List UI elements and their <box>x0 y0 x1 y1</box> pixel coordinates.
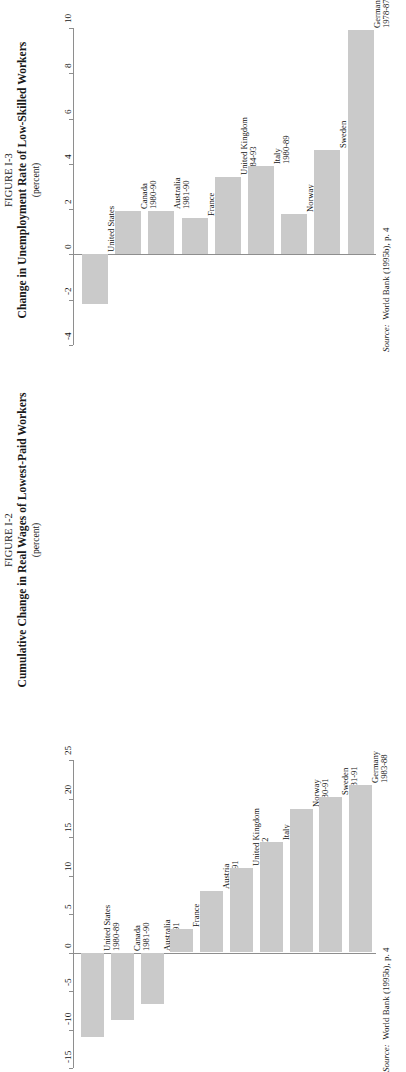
figure-1-2-title-block: FIGURE I-2 Cumulative Change in Real Wag… <box>0 360 58 720</box>
figure-1-2-source-prefix: Source: <box>381 1044 391 1072</box>
axis-tick <box>69 953 73 954</box>
figure-1-2-value-axis <box>73 760 74 1068</box>
axis-tick <box>69 876 73 877</box>
figure-1-3-title-block: FIGURE I-3 Change in Unemployment Rate o… <box>0 0 56 360</box>
bar <box>141 953 164 1005</box>
bar-label-period: 1981-90 <box>183 178 192 210</box>
axis-tick <box>69 73 73 74</box>
bar <box>290 809 313 953</box>
bar-label: Italy1980-89 <box>273 135 292 164</box>
axis-tick <box>69 1068 73 1069</box>
bar-label: United States1980-89 <box>103 904 122 950</box>
axis-tick <box>69 1030 73 1031</box>
bar-label-period: 1978-87 <box>382 0 391 28</box>
bar <box>248 166 274 254</box>
bar-label: Australia1981-90 <box>173 178 192 210</box>
bar-label-period: 1981-90 <box>142 922 151 951</box>
figure-1-3-title: Change in Unemployment Rate of Low-Skill… <box>16 42 30 319</box>
bar <box>281 214 307 255</box>
bar <box>319 797 342 953</box>
figure-1-2-source-note: Source: World Bank (1995b), p. 4 <box>381 948 391 1072</box>
axis-tick <box>69 119 73 120</box>
figure-1-2: FIGURE I-2 Cumulative Change in Real Wag… <box>0 360 406 717</box>
axis-tick <box>69 345 73 346</box>
figure-1-3-source-note: Source: World Bank (1995b), p. 4 <box>381 228 391 352</box>
figure-1-2-source-text: World Bank (1995b), p. 4 <box>381 948 391 1040</box>
figure-1-3-units: (percent) <box>30 163 42 198</box>
bar <box>115 211 141 254</box>
axis-tick <box>69 300 73 301</box>
bar-label: Canada1981-90 <box>133 922 152 951</box>
bar <box>200 891 223 953</box>
bar <box>170 929 193 952</box>
axis-tick <box>69 991 73 992</box>
axis-tick <box>69 837 73 838</box>
bar-label-period: 1983-88 <box>381 751 390 783</box>
axis-tick <box>69 254 73 255</box>
axis-tick <box>69 209 73 210</box>
figure-1-3-plot-area: -4-20246810 United States1980-90Canada19… <box>73 28 406 345</box>
axis-tick <box>69 760 73 761</box>
bar-label-country: Canada <box>132 925 142 951</box>
bar <box>148 211 174 254</box>
figure-1-3: FIGURE I-3 Change in Unemployment Rate o… <box>0 0 406 360</box>
bar <box>81 953 104 1038</box>
figure-1-2-title: Cumulative Change in Real Wages of Lowes… <box>16 393 30 688</box>
axis-tick <box>69 28 73 29</box>
bar <box>82 254 108 304</box>
bar <box>215 177 241 254</box>
bar-label: Canada1980-90 <box>140 181 159 210</box>
axis-tick <box>69 914 73 915</box>
bar <box>348 30 374 254</box>
bar <box>349 785 372 952</box>
figure-1-3-source-text: World Bank (1995b), p. 4 <box>381 228 391 320</box>
bar <box>230 868 253 953</box>
figure-1-2-plot-area: -15-10-50510152025 United States1980-89C… <box>73 760 406 1068</box>
figure-1-3-value-axis <box>73 28 74 345</box>
figure-1-3-zero-baseline <box>73 254 376 255</box>
figure-1-2-number: FIGURE I-2 <box>2 513 15 567</box>
bar <box>111 953 134 1021</box>
bar-label-period: 1980-89 <box>112 904 121 950</box>
figure-1-3-source-prefix: Source: <box>381 324 391 352</box>
bar-label: Germany1983-88 <box>371 751 390 783</box>
axis-tick <box>69 799 73 800</box>
bar <box>182 218 208 254</box>
bar <box>260 842 283 952</box>
bar-label-period: 1980-90 <box>150 181 159 210</box>
axis-tick <box>69 164 73 165</box>
bar-label: Germany1978-87 <box>373 0 392 28</box>
bar <box>314 150 340 254</box>
figure-1-3-number: FIGURE I-3 <box>2 153 15 207</box>
bar-label-period: 1980-89 <box>282 135 291 164</box>
figure-1-2-units: (percent) <box>30 523 42 558</box>
bar-label-country: Germany <box>372 0 382 28</box>
